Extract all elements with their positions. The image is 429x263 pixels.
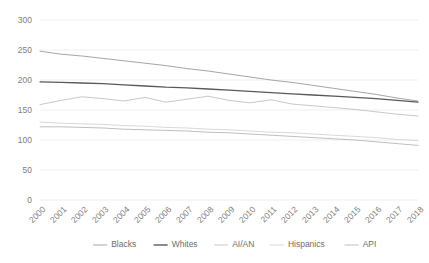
x-axis-tick-label: 2009 bbox=[216, 204, 237, 225]
x-axis-tick-label: 2001 bbox=[48, 204, 69, 225]
x-axis-tick-label: 2015 bbox=[342, 204, 363, 225]
legend-label-hispanics[interactable]: Hispanics bbox=[288, 239, 325, 249]
x-axis-tick-label: 2016 bbox=[363, 204, 384, 225]
x-axis-tick-label: 2000 bbox=[27, 204, 48, 225]
x-axis-tick-label: 2006 bbox=[153, 204, 174, 225]
x-axis-labels-group: 2000200120022003200420052006200720082009… bbox=[27, 204, 426, 225]
x-axis-tick-label: 2011 bbox=[258, 204, 278, 224]
x-axis-tick-label: 2010 bbox=[237, 204, 258, 225]
legend-label-whites[interactable]: Whites bbox=[172, 239, 198, 249]
legend-label-api[interactable]: API bbox=[363, 239, 377, 249]
x-axis-tick-label: 2013 bbox=[300, 204, 321, 225]
series-group bbox=[40, 51, 418, 145]
y-axis-tick-label: 250 bbox=[18, 45, 32, 55]
x-axis-tick-label: 2012 bbox=[279, 204, 300, 225]
x-axis-tick-label: 2004 bbox=[111, 204, 132, 225]
x-axis-tick-label: 2003 bbox=[90, 204, 111, 225]
y-axis-tick-label: 200 bbox=[18, 75, 32, 85]
y-axis-tick-label: 150 bbox=[18, 105, 32, 115]
x-axis-tick-label: 2007 bbox=[174, 204, 195, 225]
legend-label-ai-an[interactable]: AI/AN bbox=[232, 239, 254, 249]
x-axis-tick-label: 2008 bbox=[195, 204, 216, 225]
x-axis-tick-label: 2018 bbox=[405, 204, 426, 225]
series-line-ai-an bbox=[40, 96, 418, 116]
chart-canvas: 050100150200250300 200020012002200320042… bbox=[0, 0, 429, 263]
y-axis-tick-label: 300 bbox=[18, 15, 32, 25]
legend-label-blacks[interactable]: Blacks bbox=[111, 239, 136, 249]
x-axis-tick-label: 2014 bbox=[321, 204, 342, 225]
legend-group: BlacksWhitesAI/ANHispanicsAPI bbox=[93, 239, 376, 249]
y-axis-tick-label: 0 bbox=[27, 195, 32, 205]
x-axis-tick-label: 2017 bbox=[384, 204, 405, 225]
x-axis-tick-label: 2005 bbox=[132, 204, 153, 225]
x-axis-tick-label: 2002 bbox=[69, 204, 90, 225]
y-axis-tick-label: 50 bbox=[23, 165, 33, 175]
series-line-hispanics bbox=[40, 122, 418, 141]
line-chart: 050100150200250300 200020012002200320042… bbox=[0, 0, 429, 263]
y-axis-labels-group: 050100150200250300 bbox=[18, 15, 32, 205]
series-line-blacks bbox=[40, 51, 418, 101]
y-axis-tick-label: 100 bbox=[18, 135, 32, 145]
